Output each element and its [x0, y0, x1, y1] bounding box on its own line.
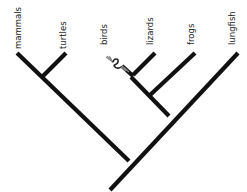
label-frogs: frogs: [186, 23, 196, 45]
label-lizards: lizards: [145, 17, 155, 45]
label-turtles: turtles: [58, 21, 68, 49]
branch-mammals: [17, 53, 129, 161]
branch-frogs: [149, 53, 195, 96]
branch-turtles: [42, 53, 66, 77]
label-mammals: mammals: [13, 6, 23, 49]
birds-squiggle-icon: [106, 56, 129, 72]
label-birds: birds: [99, 24, 109, 45]
branch-lizards: [133, 53, 155, 75]
label-lungfish: lungfish: [227, 11, 237, 45]
cladogram: mammals turtles birds lizards frogs lung…: [0, 0, 247, 192]
